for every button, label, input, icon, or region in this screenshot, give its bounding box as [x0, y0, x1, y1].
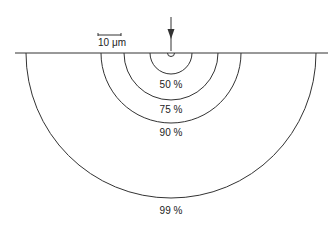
down-arrow-icon — [168, 17, 175, 51]
contour-arcs — [26, 53, 316, 198]
diagram-canvas: 10 μm 50 % 75 % 90 % 99 % — [0, 0, 336, 225]
source-semicircle — [168, 53, 175, 57]
contour-label-90: 90 % — [160, 127, 183, 138]
contour-label-75: 75 % — [160, 104, 183, 115]
scale-bar — [98, 33, 121, 36]
contour-arc-99 — [26, 53, 316, 198]
contour-label-99: 99 % — [160, 205, 183, 216]
scale-bar-label: 10 μm — [98, 37, 126, 48]
contour-arc-75 — [124, 53, 218, 100]
diffusion-contour-diagram: 10 μm 50 % 75 % 90 % 99 % — [0, 0, 336, 225]
contour-label-50: 50 % — [160, 79, 183, 90]
